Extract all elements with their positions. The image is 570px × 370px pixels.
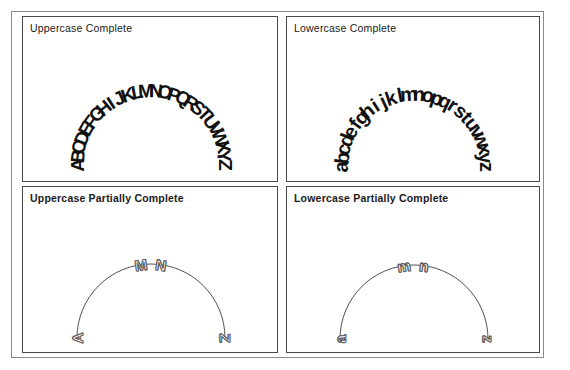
arc-letter: Z bbox=[216, 159, 235, 171]
arc-letter: a bbox=[333, 335, 348, 343]
arc-letter: z bbox=[481, 335, 496, 343]
arc-letter: z bbox=[477, 162, 497, 172]
arc-stage-lowercase-partial: amnz bbox=[287, 187, 539, 352]
arc-stage-lowercase-complete: abcdefghijklmnopqrstuvwxyz bbox=[287, 17, 539, 181]
guide-arc bbox=[23, 187, 278, 353]
arc-stage-uppercase-partial: AMNZ bbox=[23, 187, 277, 352]
figure-canvas: Uppercase Complete ABCDEFGHIJKLMNOPQRSTU… bbox=[0, 0, 570, 370]
panel-uppercase-partial: Uppercase Partially Complete AMNZ bbox=[22, 186, 278, 353]
panel-uppercase-complete: Uppercase Complete ABCDEFGHIJKLMNOPQRSTU… bbox=[22, 16, 278, 182]
arc-letter: m bbox=[396, 257, 411, 274]
arc-letter: A bbox=[70, 333, 85, 344]
panel-lowercase-complete: Lowercase Complete abcdefghijklmnopqrstu… bbox=[286, 16, 540, 182]
arc-stage-uppercase-complete: ABCDEFGHIJKLMNOPQRSTUVWXYZ bbox=[23, 17, 277, 181]
arc-letter: M bbox=[133, 256, 147, 273]
panel-lowercase-partial: Lowercase Partially Complete amnz bbox=[286, 186, 540, 353]
panel-grid: Uppercase Complete ABCDEFGHIJKLMNOPQRSTU… bbox=[22, 16, 540, 353]
arc-letter: Z bbox=[218, 333, 233, 342]
guide-arc bbox=[287, 187, 540, 353]
